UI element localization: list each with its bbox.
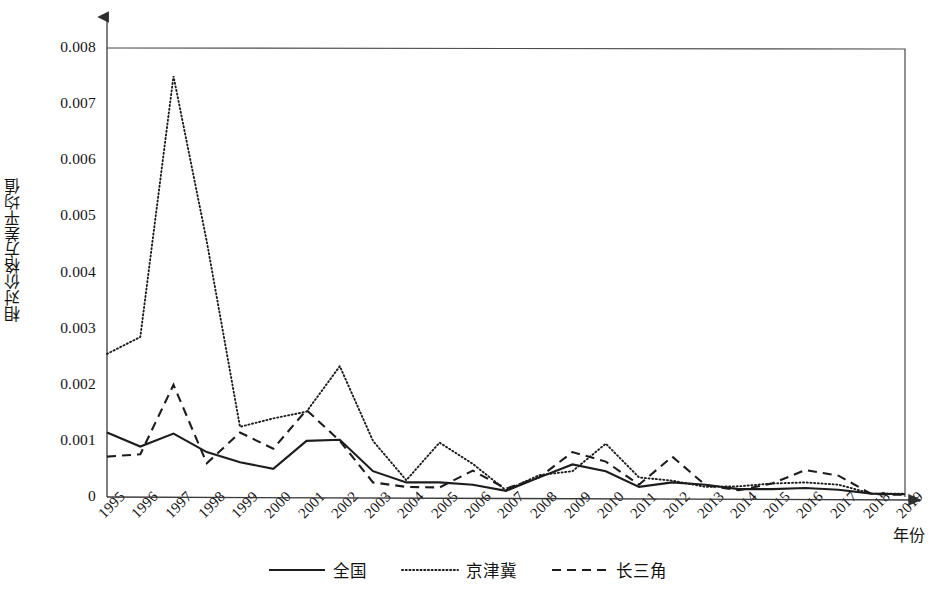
legend-label: 长三角 xyxy=(616,558,667,582)
legend-label: 京津冀 xyxy=(466,558,517,582)
legend-item[interactable]: 京津冀 xyxy=(401,558,517,582)
series-line-dotted xyxy=(107,76,905,494)
legend-item[interactable]: 长三角 xyxy=(551,558,667,582)
series-line-dashed xyxy=(107,385,905,495)
legend-swatch-dashed-icon xyxy=(551,563,609,577)
x-axis xyxy=(107,497,920,500)
plot-box-border xyxy=(107,48,905,497)
chart-figure: 相对价格方差平均值 年份 00.0010.0020.0030.0040.0050… xyxy=(0,0,934,597)
legend-swatch-dotted-icon xyxy=(401,563,459,577)
legend-swatch-solid-icon xyxy=(268,563,326,577)
series-layer xyxy=(107,76,905,495)
legend-label: 全国 xyxy=(333,558,367,582)
chart-plot-area xyxy=(0,0,934,597)
chart-legend: 全国京津冀长三角 xyxy=(0,558,934,582)
legend-item[interactable]: 全国 xyxy=(268,558,367,582)
series-line-solid xyxy=(107,433,905,495)
